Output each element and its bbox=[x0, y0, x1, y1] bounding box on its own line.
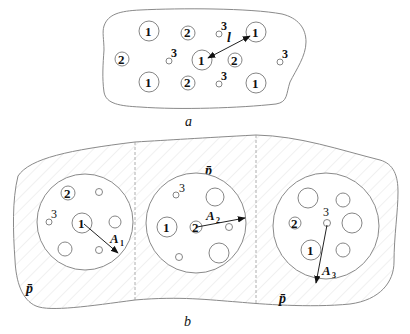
svg-text:1: 1 bbox=[252, 25, 259, 40]
particle-type-1: 1 bbox=[246, 22, 266, 42]
svg-text:1: 1 bbox=[252, 76, 259, 91]
svg-text:3: 3 bbox=[282, 47, 288, 61]
svg-text:2: 2 bbox=[291, 216, 298, 231]
particle-type-2: 2 bbox=[181, 25, 195, 40]
distance-label: l bbox=[227, 30, 231, 45]
matrix-label: p̄ bbox=[25, 281, 33, 296]
svg-text:2: 2 bbox=[192, 220, 199, 235]
particle-type-1: 1 bbox=[192, 50, 212, 70]
svg-text:3: 3 bbox=[323, 205, 329, 219]
svg-text:3: 3 bbox=[221, 69, 227, 83]
svg-text:1: 1 bbox=[307, 243, 314, 258]
diagram-figure: 1 2 3 1 2 3 1 2 3 1 2 3 1 l a p̄ p̄ bbox=[0, 0, 410, 334]
svg-text:3: 3 bbox=[179, 181, 185, 195]
panel-a: 1 2 3 1 2 3 1 2 3 1 2 3 1 l a bbox=[103, 9, 306, 129]
svg-text:1: 1 bbox=[120, 239, 124, 248]
svg-text:p̄: p̄ bbox=[278, 291, 286, 306]
particle-type-2: 2 bbox=[228, 53, 242, 68]
svg-text:2: 2 bbox=[64, 186, 71, 201]
particle-type-2: 2 bbox=[181, 75, 195, 90]
svg-text:3: 3 bbox=[51, 207, 57, 221]
svg-text:2: 2 bbox=[184, 75, 191, 90]
svg-text:1: 1 bbox=[163, 220, 170, 235]
svg-text:1: 1 bbox=[145, 75, 152, 90]
particle-type-3: 3 bbox=[216, 19, 227, 37]
svg-text:p̄: p̄ bbox=[25, 281, 33, 296]
panel-b: p̄ p̄ p̄ 2 3 1 A 1 3 bbox=[13, 135, 398, 329]
cell-2: 3 1 2 A 2 bbox=[146, 173, 246, 273]
svg-text:1: 1 bbox=[145, 24, 152, 39]
svg-text:1: 1 bbox=[78, 216, 85, 231]
svg-text:2: 2 bbox=[231, 53, 238, 68]
particle-type-3: 3 bbox=[166, 46, 177, 64]
cell-1: 2 3 1 A 1 bbox=[37, 174, 133, 270]
particle-type-2: 2 bbox=[115, 52, 129, 67]
radius-label-a2: A bbox=[205, 208, 215, 223]
svg-text:2: 2 bbox=[118, 52, 125, 67]
particle-type-1: 1 bbox=[139, 72, 159, 92]
svg-text:1: 1 bbox=[198, 53, 205, 68]
panel-b-caption: b bbox=[184, 314, 191, 329]
particle-type-1: 1 bbox=[246, 73, 266, 93]
particle-type-1: 1 bbox=[139, 21, 159, 41]
radius-label-a1: A bbox=[109, 231, 119, 246]
panel-a-caption: a bbox=[185, 114, 192, 129]
radius-label-a3: A bbox=[321, 263, 331, 278]
svg-text:3: 3 bbox=[171, 46, 177, 60]
particle-type-3: 3 bbox=[216, 69, 227, 87]
matrix-label: p̄ bbox=[278, 291, 286, 306]
svg-text:2: 2 bbox=[184, 25, 191, 40]
svg-text:3: 3 bbox=[332, 271, 336, 280]
particle-type-3: 3 bbox=[277, 47, 288, 65]
svg-text:2: 2 bbox=[216, 216, 220, 225]
